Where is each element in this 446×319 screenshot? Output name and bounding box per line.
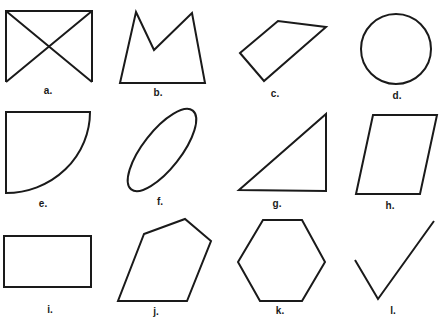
shape-i: i. [4,236,91,315]
label-h: h. [386,200,395,211]
label-i: i. [47,304,53,315]
label-g: g. [273,198,282,209]
label-f: f. [157,196,163,207]
rectangle-with-diagonals-shape [6,11,92,82]
shape-l: l. [355,221,434,316]
label-a: a. [44,85,53,96]
rectangle-shape [4,236,91,287]
shape-d: d. [361,14,431,101]
shape-a: a. [6,11,92,96]
shape-g: g. [239,114,326,209]
shape-j: j. [118,219,211,317]
circle-shape [361,14,431,84]
quadrilateral-shape [240,21,326,81]
label-e: e. [39,198,48,209]
shape-k: k. [238,220,325,316]
shape-b: b. [120,12,205,98]
label-l: l. [390,305,396,316]
label-c: c. [271,88,280,99]
label-b: b. [154,87,163,98]
shapes-figure: a. b. c. d. e. f. g. h. i. j. [0,0,446,319]
label-d: d. [393,90,402,101]
shape-c: c. [240,21,326,99]
irregular-pentagon-shape [118,219,211,301]
shape-e: e. [6,112,90,209]
hexagon-shape [238,220,325,301]
label-k: k. [276,305,285,316]
label-j: j. [152,306,159,317]
shape-h: h. [356,115,437,211]
shape-f: f. [116,99,208,207]
quarter-circle-shape [6,112,90,193]
right-triangle-shape [239,114,326,191]
parallelogram-shape [356,115,437,194]
open-angle-shape [355,221,434,299]
concave-pentagon-shape [120,12,205,83]
ellipse-shape [116,99,208,201]
